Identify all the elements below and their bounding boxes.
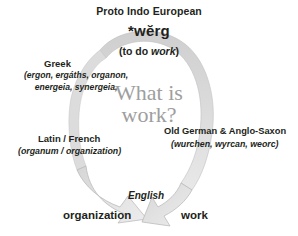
root-gloss-prefix: (to do (119, 45, 151, 57)
branch-terms-greek: (ergon, ergáths, organon, energeia, syne… (6, 70, 146, 93)
center-question-line2: work? (0, 104, 298, 126)
root-gloss-italic: work (151, 45, 176, 57)
branch-terms-latin-french: (organum / organization) (18, 146, 121, 156)
branch-label-old-german-anglo-saxon: Old German & Anglo-Saxon (164, 126, 286, 137)
root-gloss-label: (to do work) (0, 45, 298, 57)
outcome-word-work: work (181, 209, 208, 222)
branch-label-greek: Greek (44, 59, 71, 70)
root-language-label: Proto Indo European (0, 5, 298, 17)
etymology-diagram: What is work? Proto Indo European *wĕrg … (0, 0, 298, 236)
outcome-language-label: English (128, 190, 164, 202)
root-gloss-suffix: ) (176, 45, 180, 57)
branch-label-latin-french: Latin / French (38, 134, 100, 145)
outcome-word-organization: organization (63, 209, 131, 222)
branch-terms-old-german-anglo-saxon: (wurchen, wyrcan, weorc) (171, 139, 279, 149)
root-term-label: *wĕrg (0, 22, 298, 39)
